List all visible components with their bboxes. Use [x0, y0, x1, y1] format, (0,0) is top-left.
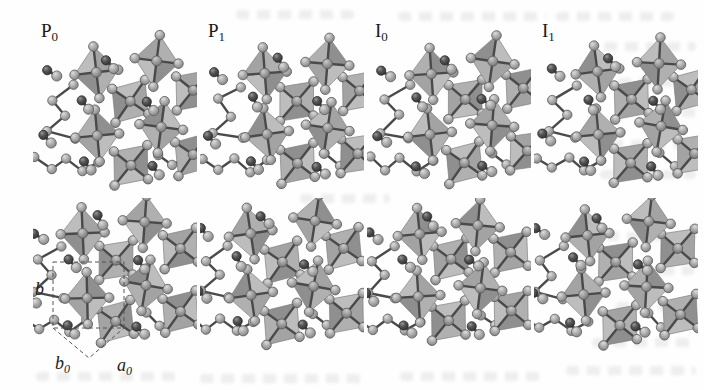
light-atom [211, 139, 221, 149]
vertex-atom [60, 294, 70, 304]
chain-atom [547, 163, 556, 172]
dark-atom [399, 321, 408, 330]
light-atom [386, 72, 396, 82]
light-atom [217, 75, 227, 85]
light-atom [140, 264, 150, 274]
chain-atom [559, 241, 568, 250]
vertex-atom [70, 132, 80, 142]
dark-atom [298, 320, 307, 329]
light-atom [597, 223, 607, 233]
light-atom [149, 105, 159, 115]
vertex-atom [300, 57, 310, 67]
vertex-atom [258, 42, 268, 52]
light-atom [109, 64, 119, 74]
chain-atom [565, 153, 574, 162]
dumbbell-atom-pair [367, 228, 383, 245]
light-atom [84, 104, 94, 114]
dark-atom [440, 56, 449, 65]
vertex-atom [344, 60, 354, 70]
vertex-atom [640, 308, 650, 318]
dark-atom [43, 66, 52, 75]
light-atom [417, 102, 427, 112]
light-atom [642, 265, 652, 275]
dark-atom [412, 93, 421, 102]
chain-atom [223, 241, 232, 250]
crystal-panel-p0: P0 [33, 10, 197, 195]
chain-atom [33, 255, 42, 264]
light-atom [264, 219, 274, 229]
vertex-atom [643, 256, 653, 266]
dark-atom [649, 96, 658, 105]
vertex-atom [676, 60, 686, 70]
vertex-atom [596, 155, 606, 165]
atom-chain [200, 241, 233, 302]
vertex-atom [615, 127, 625, 137]
light-atom [70, 329, 80, 339]
light-atom [487, 167, 497, 177]
chain-atom [534, 154, 542, 163]
chain-atom [395, 153, 404, 162]
chain-atom [48, 96, 57, 105]
structure-motif [367, 198, 531, 361]
dark-atom [373, 132, 382, 141]
dark-atom [300, 260, 309, 269]
atom-chain [208, 83, 248, 143]
chain-atom [201, 257, 210, 266]
chain-atom [69, 80, 78, 89]
vertex-atom [632, 57, 642, 67]
vertex-atom [56, 229, 66, 239]
dark-atom [203, 131, 212, 140]
dark-atom [63, 321, 72, 330]
crystal-panel-p0-lower: bb0a0 [33, 198, 197, 383]
vertex-atom [415, 317, 425, 327]
center-atom [578, 289, 589, 300]
dark-atom [134, 256, 143, 265]
dark-atom [132, 322, 141, 331]
dumbbell-atom-pair [210, 68, 228, 85]
light-atom [655, 104, 665, 114]
dumbbell-atom-pair [569, 253, 587, 271]
center-atom [82, 293, 92, 303]
vertex-atom [79, 254, 89, 264]
structure-motif [534, 198, 698, 366]
center-atom [641, 281, 652, 292]
dark-atom [77, 96, 86, 105]
light-atom [474, 329, 484, 339]
structure-motif [367, 27, 531, 195]
chain-atom [215, 270, 224, 279]
chain-atom [61, 154, 70, 163]
vertex-atom [663, 283, 673, 293]
vertex-atom [619, 280, 629, 290]
dark-atom [273, 53, 282, 62]
dumbbell-atom-pair [398, 255, 416, 273]
dark-atom [200, 224, 205, 233]
dark-atom [566, 318, 575, 327]
chain-atom [394, 110, 403, 119]
chain-atom [547, 272, 556, 281]
chain-atom [47, 164, 56, 173]
crystal-panel-i0: I0 [367, 10, 531, 195]
dark-atom [367, 228, 374, 237]
light-atom [369, 296, 379, 306]
dark-atom [631, 322, 640, 331]
dark-atom [142, 97, 151, 106]
dark-atom [411, 162, 420, 171]
panel-label-i0: I0 [375, 20, 388, 44]
dumbbell-atom-pair [534, 288, 548, 304]
chain-atom [367, 152, 375, 161]
dumbbell-atom-pair [547, 64, 565, 81]
dark-atom [377, 66, 386, 75]
structure-motif [33, 198, 197, 362]
center-atom [322, 58, 333, 69]
crystal-panel-p1: P1 [200, 10, 364, 195]
vertex-atom [114, 128, 124, 138]
chain-atom [230, 154, 239, 163]
light-atom [98, 220, 108, 230]
crystal-panel-i1-lower [534, 198, 698, 383]
light-atom [305, 328, 315, 338]
chain-atom [368, 325, 377, 334]
chain-atom [167, 160, 176, 169]
structure-motif [33, 27, 197, 195]
dumbbell-atom-pair [200, 287, 212, 304]
dark-atom [534, 224, 540, 233]
